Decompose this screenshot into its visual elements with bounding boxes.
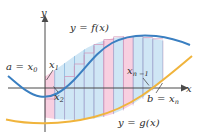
- rect-strip: [84, 20, 94, 130]
- label-xn-minus-1-sub: n −1: [133, 70, 149, 78]
- rect-strip: [65, 20, 75, 130]
- rect-strip: [55, 20, 65, 130]
- label-b-equals-xn: b = xn: [147, 94, 179, 104]
- label-b-equals-xn-text: b = x: [147, 93, 175, 104]
- label-x2: x2: [54, 92, 64, 102]
- label-x2-text: x: [54, 91, 60, 102]
- label-x1-text: x: [49, 59, 55, 70]
- x-axis-label: x: [186, 84, 192, 94]
- label-a-equals-x0-text: a = x: [6, 61, 33, 72]
- curve-g-label: y = g(x): [118, 118, 160, 128]
- label-x1-sub: 1: [55, 64, 59, 72]
- y-axis-label: y: [41, 8, 47, 18]
- curve-f-label: y = f(x): [70, 23, 109, 33]
- label-xn-minus-1-text: x: [127, 65, 133, 76]
- label-x1: x1: [49, 60, 59, 70]
- label-a-equals-x0-sub: 0: [33, 66, 37, 74]
- label-a-equals-x0: a = x0: [6, 62, 37, 72]
- label-xn-minus-1: xn −1: [127, 66, 149, 76]
- rect-strip: [94, 20, 104, 130]
- label-b-equals-xn-sub: n: [175, 98, 179, 106]
- area-between-curves-figure: y x y = f(x) y = g(x) a = x0 x1 x2 xn −1…: [0, 0, 199, 139]
- label-x2-sub: 2: [60, 96, 64, 104]
